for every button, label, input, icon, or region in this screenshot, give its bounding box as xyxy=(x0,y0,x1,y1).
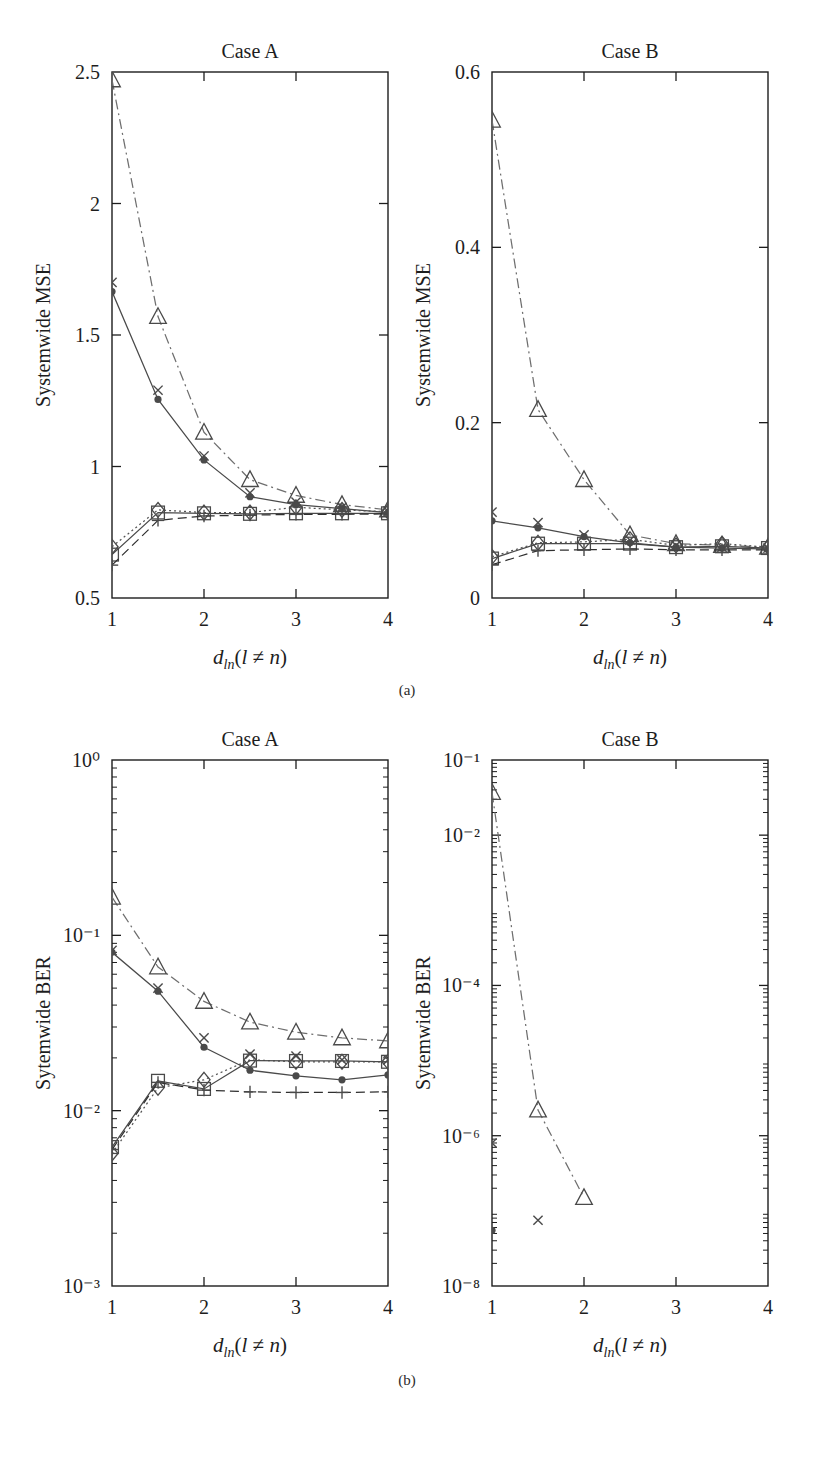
svg-text:1: 1 xyxy=(487,608,497,630)
svg-text:10⁻²: 10⁻² xyxy=(63,1100,100,1122)
chart-panel-b-case-a: Case A123410⁻³10⁻²10⁻¹10⁰dln(l ≠ n)Sytem… xyxy=(0,718,434,1358)
svg-text:Sytemwide BER: Sytemwide BER xyxy=(32,955,55,1090)
svg-text:4: 4 xyxy=(763,608,773,630)
svg-text:10⁻⁴: 10⁻⁴ xyxy=(442,974,480,996)
svg-text:10⁻⁶: 10⁻⁶ xyxy=(442,1125,480,1147)
svg-text:0.2: 0.2 xyxy=(455,412,480,434)
svg-text:dln(l ≠ n): dln(l ≠ n) xyxy=(213,645,287,672)
svg-text:0.6: 0.6 xyxy=(455,61,480,83)
svg-text:Sytemwide BER: Sytemwide BER xyxy=(412,955,435,1090)
svg-text:2: 2 xyxy=(579,1296,589,1318)
svg-text:10⁻⁸: 10⁻⁸ xyxy=(442,1275,480,1297)
svg-text:Case B: Case B xyxy=(601,40,658,62)
figure-caption xyxy=(18,1450,808,1462)
svg-text:0.4: 0.4 xyxy=(455,236,480,258)
svg-text:10⁻¹: 10⁻¹ xyxy=(63,924,100,946)
chart-panel-a-case-a: Case A12340.511.522.5dln(l ≠ n)Systemwid… xyxy=(0,30,434,670)
svg-text:3: 3 xyxy=(291,1296,301,1318)
svg-text:10⁰: 10⁰ xyxy=(72,749,100,771)
svg-text:10⁻²: 10⁻² xyxy=(443,824,480,846)
svg-text:1: 1 xyxy=(90,456,100,478)
svg-text:1: 1 xyxy=(107,608,117,630)
svg-text:1: 1 xyxy=(487,1296,497,1318)
svg-text:Case A: Case A xyxy=(221,40,279,62)
subfigure-label-a: (a) xyxy=(0,682,814,699)
svg-text:2.5: 2.5 xyxy=(75,61,100,83)
svg-text:1: 1 xyxy=(107,1296,117,1318)
svg-text:10⁻³: 10⁻³ xyxy=(63,1275,100,1297)
figure-root: Case A12340.511.522.5dln(l ≠ n)Systemwid… xyxy=(0,0,814,1462)
svg-text:Systemwide MSE: Systemwide MSE xyxy=(412,263,435,407)
svg-text:dln(l ≠ n): dln(l ≠ n) xyxy=(593,645,667,672)
svg-text:3: 3 xyxy=(291,608,301,630)
svg-text:Case B: Case B xyxy=(601,728,658,750)
svg-text:0.5: 0.5 xyxy=(75,587,100,609)
svg-text:dln(l ≠ n): dln(l ≠ n) xyxy=(593,1333,667,1360)
svg-text:0: 0 xyxy=(470,587,480,609)
svg-text:Case A: Case A xyxy=(221,728,279,750)
svg-text:2: 2 xyxy=(199,608,209,630)
subfigure-label-b: (b) xyxy=(0,1372,814,1389)
svg-text:dln(l ≠ n): dln(l ≠ n) xyxy=(213,1333,287,1360)
chart-panel-a-case-b: Case B123400.20.40.6dln(l ≠ n)Systemwide… xyxy=(380,30,814,670)
svg-text:10⁻¹: 10⁻¹ xyxy=(443,749,480,771)
chart-panel-b-case-b: Case B123410⁻⁸10⁻⁶10⁻⁴10⁻²10⁻¹dln(l ≠ n)… xyxy=(380,718,814,1358)
svg-text:Systemwide MSE: Systemwide MSE xyxy=(32,263,55,407)
svg-text:3: 3 xyxy=(671,1296,681,1318)
svg-text:2: 2 xyxy=(199,1296,209,1318)
svg-text:2: 2 xyxy=(90,193,100,215)
svg-text:3: 3 xyxy=(671,608,681,630)
svg-text:2: 2 xyxy=(579,608,589,630)
svg-text:4: 4 xyxy=(763,1296,773,1318)
svg-text:1.5: 1.5 xyxy=(75,324,100,346)
